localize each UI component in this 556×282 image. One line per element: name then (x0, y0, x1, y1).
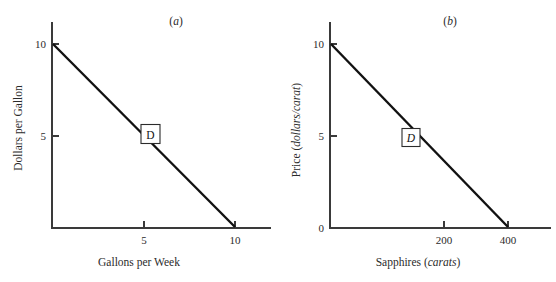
demand-label-b-text: D (406, 132, 416, 144)
x-tick-label-a-5: 5 (141, 234, 147, 246)
y-axis-title-b-plain: Price ( (290, 147, 303, 178)
x-tick-label-b-200: 200 (436, 234, 453, 246)
x-tick-label-b-400: 400 (500, 234, 517, 246)
y-axis-title-a: Dollars per Gallon (12, 85, 25, 171)
y-tick-label-a-10: 10 (35, 38, 47, 50)
panel-a-tag: (a) (169, 15, 183, 28)
panel-b-tag-letter: b (447, 15, 453, 27)
x-axis-title-b-tail: ) (456, 256, 460, 269)
y-tick-label-a-5: 5 (41, 130, 47, 142)
x-axis-title-b-italic: carats (428, 256, 457, 268)
y-tick-label-b-5: 5 (319, 130, 325, 142)
x-tick-label-a-10: 10 (230, 234, 242, 246)
y-tick-label-b-0: 0 (319, 222, 325, 234)
panel-a-tag-letter: a (173, 15, 179, 27)
panel-b: (b) 10 5 0 200 400 D (278, 0, 556, 282)
chart-a: (a) 10 5 5 10 D Gal (0, 0, 278, 282)
x-axis-title-a: Gallons per Week (98, 256, 180, 269)
x-axis-title-b: Sapphires (carats) (376, 256, 461, 269)
chart-b: (b) 10 5 0 200 400 D (278, 0, 556, 282)
y-axis-title-b-tail: ) (290, 83, 303, 87)
demand-label-a: D (141, 125, 160, 144)
panel-a: (a) 10 5 5 10 D Gal (0, 0, 278, 282)
demand-curves-figure: (a) 10 5 5 10 D Gal (0, 0, 556, 282)
demand-label-a-text: D (146, 129, 154, 141)
demand-label-b: D (402, 129, 420, 147)
y-axis-title-b-italic: dollars/carat (290, 86, 302, 147)
x-axis-title-b-plain: Sapphires ( (376, 256, 428, 269)
y-tick-label-b-10: 10 (313, 38, 325, 50)
y-axis-title-b: Price (dollars/carat) (290, 83, 303, 177)
panel-b-tag: (b) (443, 15, 457, 28)
